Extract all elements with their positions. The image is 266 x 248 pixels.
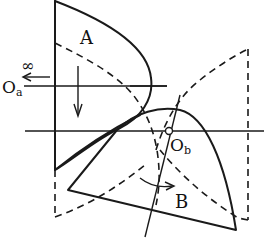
label-origin-a: Oa: [2, 77, 23, 99]
diagram-canvas: A B ∞ Oa Ob: [0, 0, 266, 248]
region-b-shape: [68, 109, 236, 230]
origin-b-point: [166, 128, 173, 135]
label-region-a: A: [79, 27, 94, 48]
infinity-symbol: ∞: [21, 56, 34, 75]
label-origin-b: Ob: [170, 135, 191, 157]
label-region-b: B: [175, 191, 188, 212]
diagram-svg: A B ∞ Oa Ob: [0, 0, 266, 248]
